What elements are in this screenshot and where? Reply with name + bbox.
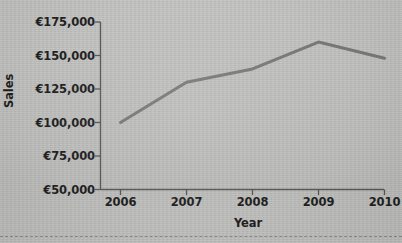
page-bottom-edge: [0, 236, 402, 237]
y-axis-ticks: [95, 22, 101, 190]
x-tick-label-2006: 2006: [105, 195, 137, 209]
y-tick-label-50000: €50,000: [43, 183, 95, 197]
sales-line-series: [121, 42, 385, 122]
x-tick-label-2010: 2010: [369, 195, 401, 209]
y-tick-label-125000: €125,000: [35, 82, 95, 96]
x-tick-label-2008: 2008: [237, 195, 269, 209]
x-tick-label-2007: 2007: [171, 195, 203, 209]
y-tick-label-150000: €150,000: [35, 49, 95, 63]
y-tick-label-100000: €100,000: [35, 116, 95, 130]
y-tick-label-175000: €175,000: [35, 15, 95, 29]
y-tick-label-75000: €75,000: [43, 149, 95, 163]
x-tick-label-2009: 2009: [303, 195, 335, 209]
scanned-page: €175,000 €150,000 €125,000 €100,000 €75,…: [0, 0, 402, 243]
x-axis-title: Year: [234, 216, 262, 230]
line-chart: €175,000 €150,000 €125,000 €100,000 €75,…: [0, 0, 402, 243]
y-axis-title: Sales: [2, 74, 16, 108]
